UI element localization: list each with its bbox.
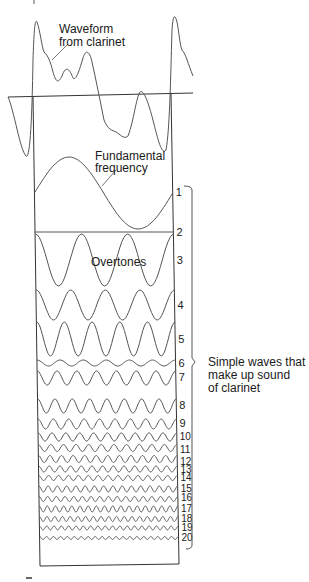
harmonic-number-20: 20: [182, 532, 194, 543]
waveform-label-line2: from clarinet: [59, 35, 126, 49]
harmonic-number-2: 2: [176, 226, 182, 238]
bracket-label-line2: make up sound: [208, 368, 290, 382]
harmonic-wave-14: [39, 476, 178, 481]
harmonic-wave-15: [39, 486, 178, 492]
harmonic-wave-8: [38, 399, 177, 413]
harmonic-number-3: 3: [177, 254, 183, 266]
clarinet-harmonics-diagram: 1234567891011121314151617181920 Waveform…: [0, 0, 309, 582]
fundamental-label-line2: frequency: [95, 161, 148, 175]
bracket-label-line3: of clarinet: [208, 381, 261, 395]
harmonic-wave-7: [37, 371, 176, 385]
harmonic-number-8: 8: [179, 399, 185, 411]
harmonic-number-10: 10: [180, 431, 192, 442]
harmonic-number-4: 4: [178, 299, 184, 311]
harmonic-wave-17: [39, 506, 178, 512]
harmonic-number-14: 14: [181, 472, 193, 483]
harmonic-wave-13: [39, 466, 178, 472]
harmonic-wave-12: [38, 456, 177, 463]
harmonic-number-7: 7: [179, 371, 185, 383]
harmonic-number-11: 11: [180, 444, 191, 455]
harmonic-number-6: 6: [179, 357, 185, 369]
harmonic-number-1: 1: [176, 186, 182, 198]
harmonic-number-5: 5: [178, 333, 184, 345]
harmonic-number-9: 9: [180, 417, 186, 429]
harmonic-wave-5: [37, 322, 176, 356]
waveform-axis: [8, 93, 193, 97]
harmonic-wave-10: [38, 433, 177, 441]
harmonic-wave-11: [38, 445, 177, 452]
harmonic-wave-9: [38, 419, 177, 429]
harmonic-wave-16: [39, 497, 178, 502]
harmonic-wave-19: [39, 526, 178, 530]
bracket-label-line1: Simple waves that: [208, 355, 306, 369]
waveform-label-line1: Waveform: [59, 22, 113, 36]
harmonic-wave-6: [37, 360, 176, 366]
harmonic-wave-18: [39, 517, 178, 522]
harmonic-wave-20: [40, 537, 179, 540]
harmonic-number-16: 16: [181, 492, 193, 503]
overtones-label: Overtones: [91, 255, 146, 269]
harmonic-wave-4: [36, 290, 175, 320]
harmonics-group: 1234567891011121314151617181920: [34, 157, 193, 543]
